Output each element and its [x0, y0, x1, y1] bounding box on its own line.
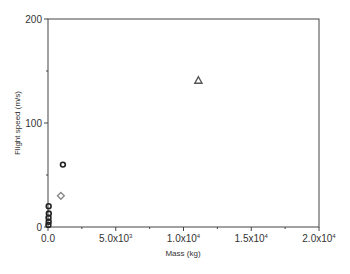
x-tick-label: 5.0x103: [99, 233, 133, 244]
x-tick-label: 1.5x104: [235, 233, 269, 244]
data-points: [46, 77, 202, 228]
y-tick-label: 200: [25, 14, 42, 25]
plot-border: [48, 19, 319, 227]
x-tick-label: 1.0x104: [167, 233, 201, 244]
x-tick-label: 2.0x104: [302, 233, 336, 244]
y-tick-label: 0: [36, 222, 42, 233]
diamond-marker: [57, 192, 64, 199]
y-tick-label: 100: [25, 118, 42, 129]
x-axis-title: Mass (kg): [165, 249, 200, 258]
x-tick-label: 0.0: [41, 233, 55, 244]
plot-frame: [48, 19, 319, 227]
y-axis-ticks: 0100200: [25, 14, 48, 233]
circle-marker: [61, 162, 66, 167]
x-axis-ticks: 0.05.0x1031.0x1041.5x1042.0x104: [41, 227, 336, 244]
y-axis-title: Flight speed (m/s): [13, 91, 22, 155]
triangle-marker: [195, 77, 202, 83]
circle-marker: [46, 204, 51, 209]
scatter-chart: 0.05.0x1031.0x1041.5x1042.0x104 0100200 …: [0, 0, 350, 274]
